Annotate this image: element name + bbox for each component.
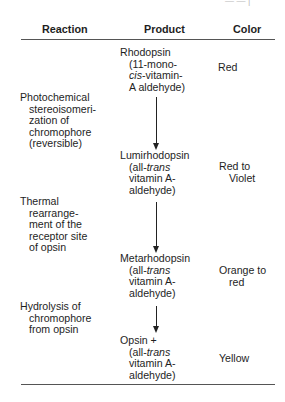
color-line: red bbox=[219, 277, 266, 289]
color-lumirhodopsin: Red to Violet bbox=[219, 161, 255, 184]
product-opsin: Opsin + (all-trans vitamin A- aldehyde) bbox=[120, 335, 176, 381]
color-line: Red to bbox=[219, 161, 255, 173]
reaction-line: Thermal bbox=[20, 196, 87, 208]
color-line: Red bbox=[218, 62, 237, 74]
italic-trans: trans bbox=[147, 161, 171, 173]
arrow-3-shaft bbox=[156, 306, 157, 328]
reaction-thermal: Thermal rearrange- ment of the receptor … bbox=[20, 196, 87, 254]
italic-cis: cis bbox=[129, 69, 142, 81]
product-detail-line: aldehyde) bbox=[120, 370, 176, 382]
product-name: Rhodopsin bbox=[120, 47, 185, 59]
product-lumirhodopsin: Lumirhodopsin (all-trans vitamin A- alde… bbox=[120, 150, 190, 196]
reaction-line: (reversible) bbox=[20, 138, 96, 150]
all-prefix: (all- bbox=[129, 264, 147, 276]
italic-trans: trans bbox=[147, 346, 171, 358]
product-rhodopsin: Rhodopsin (11-mono- cis-vitamin- A aldeh… bbox=[120, 47, 185, 93]
reaction-line: Hydrolysis of bbox=[20, 301, 91, 313]
color-line: Yellow bbox=[219, 353, 249, 365]
color-rhodopsin: Red bbox=[218, 62, 237, 74]
product-detail-line: aldehyde) bbox=[120, 185, 190, 197]
product-metarhodopsin: Metarhodopsin (all-trans vitamin A- alde… bbox=[120, 253, 190, 299]
header-reaction: Reaction bbox=[42, 24, 88, 36]
color-metarhodopsin: Orange to red bbox=[219, 265, 266, 288]
color-line: Violet bbox=[219, 173, 255, 185]
arrow-down-icon bbox=[153, 326, 159, 333]
reaction-line: from opsin bbox=[20, 324, 91, 336]
header-color: Color bbox=[233, 24, 261, 36]
color-line: Orange to bbox=[219, 265, 266, 277]
all-prefix: (all- bbox=[129, 161, 147, 173]
page-fragment: — — | bbox=[225, 0, 250, 8]
arrow-1-shaft bbox=[156, 97, 157, 145]
cis-suffix: -vitamin- bbox=[142, 69, 183, 81]
color-opsin: Yellow bbox=[219, 353, 249, 365]
reaction-line: of opsin bbox=[20, 242, 87, 254]
all-prefix: (all- bbox=[129, 346, 147, 358]
arrow-2-shaft bbox=[156, 202, 157, 248]
product-detail-line: A aldehyde) bbox=[120, 82, 185, 94]
reaction-photochemical: Photochemical stereoisomeri- zation of c… bbox=[20, 92, 96, 150]
italic-trans: trans bbox=[147, 264, 171, 276]
product-detail-line: aldehyde) bbox=[120, 288, 190, 300]
reaction-hydrolysis: Hydrolysis of chromophore from opsin bbox=[20, 301, 91, 336]
top-rule bbox=[21, 39, 275, 40]
header-product: Product bbox=[144, 24, 185, 36]
reaction-line: Photochemical bbox=[20, 92, 96, 104]
bottom-rule bbox=[21, 384, 275, 385]
